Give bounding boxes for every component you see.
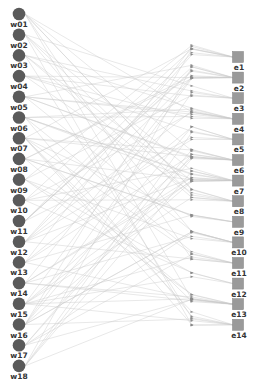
node-label: e9 bbox=[234, 228, 244, 237]
square-node-icon bbox=[233, 72, 244, 83]
left-node-w14[interactable]: w14 bbox=[10, 277, 27, 298]
left-node-w12[interactable]: w12 bbox=[10, 235, 27, 256]
left-node-w07[interactable]: w07 bbox=[10, 132, 27, 153]
arrowhead-marker bbox=[191, 167, 194, 169]
node-label: w14 bbox=[10, 289, 27, 298]
left-node-w18[interactable]: w18 bbox=[10, 360, 27, 380]
left-node-w09[interactable]: w09 bbox=[10, 173, 27, 194]
node-label: e5 bbox=[234, 145, 244, 154]
circle-node-icon bbox=[13, 153, 26, 166]
square-node-icon bbox=[233, 155, 244, 166]
circle-node-icon bbox=[13, 339, 26, 352]
circle-node-icon bbox=[13, 298, 26, 311]
square-node-icon bbox=[233, 258, 244, 269]
left-node-w08[interactable]: w08 bbox=[10, 153, 27, 174]
circle-node-icon bbox=[13, 360, 26, 373]
edge bbox=[25, 150, 233, 346]
circle-node-icon bbox=[13, 8, 26, 21]
arrowhead-marker bbox=[191, 315, 194, 317]
square-node-icon bbox=[233, 216, 244, 227]
arrowhead-marker bbox=[191, 85, 194, 87]
circle-node-icon bbox=[13, 256, 26, 269]
square-node-icon bbox=[233, 237, 244, 248]
edge bbox=[25, 178, 233, 242]
circle-node-icon bbox=[13, 28, 26, 41]
right-node-e5[interactable]: e5 bbox=[233, 134, 245, 155]
edge bbox=[25, 132, 233, 366]
right-node-e8[interactable]: e8 bbox=[233, 196, 245, 217]
left-node-w01[interactable]: w01 bbox=[10, 8, 27, 29]
right-node-e12[interactable]: e12 bbox=[231, 278, 247, 299]
left-node-w15[interactable]: w15 bbox=[10, 298, 27, 319]
right-node-e14[interactable]: e14 bbox=[231, 319, 247, 340]
node-label: e13 bbox=[231, 310, 247, 319]
right-node-e4[interactable]: e4 bbox=[233, 113, 245, 134]
right-node-column: e1e2e3e4e5e6e7e8e9e10e11e12e13e14 bbox=[231, 52, 247, 340]
square-node-icon bbox=[233, 113, 244, 124]
left-node-w17[interactable]: w17 bbox=[10, 339, 27, 360]
right-node-e10[interactable]: e10 bbox=[231, 237, 247, 258]
node-label: w18 bbox=[10, 372, 27, 380]
arrowhead-marker bbox=[191, 276, 194, 278]
square-node-icon bbox=[233, 52, 244, 63]
left-node-w04[interactable]: w04 bbox=[10, 70, 27, 91]
node-label: w15 bbox=[10, 310, 27, 319]
node-label: e3 bbox=[234, 104, 244, 113]
left-node-w05[interactable]: w05 bbox=[10, 91, 27, 112]
edge bbox=[25, 283, 233, 304]
square-node-icon bbox=[233, 319, 244, 330]
right-node-e7[interactable]: e7 bbox=[233, 175, 245, 196]
circle-node-icon bbox=[13, 235, 26, 248]
square-node-icon bbox=[233, 134, 244, 145]
edge bbox=[25, 159, 233, 346]
edge bbox=[25, 76, 233, 201]
node-label: w10 bbox=[10, 206, 27, 215]
edge bbox=[25, 138, 233, 160]
node-label: w09 bbox=[10, 186, 27, 195]
edge bbox=[25, 65, 233, 97]
edge bbox=[25, 181, 233, 284]
left-node-w03[interactable]: w03 bbox=[10, 49, 27, 70]
edge bbox=[25, 159, 233, 181]
edge bbox=[25, 299, 233, 366]
right-node-e9[interactable]: e9 bbox=[233, 216, 245, 237]
node-label: e14 bbox=[231, 331, 247, 340]
right-node-e1[interactable]: e1 bbox=[233, 52, 245, 73]
circle-node-icon bbox=[13, 91, 26, 104]
arrowhead-marker bbox=[191, 66, 194, 68]
left-node-w11[interactable]: w11 bbox=[10, 215, 27, 236]
circle-node-icon bbox=[13, 132, 26, 145]
circle-node-icon bbox=[13, 49, 26, 62]
square-node-icon bbox=[233, 93, 244, 104]
arrowhead-marker bbox=[191, 115, 194, 117]
edges bbox=[25, 14, 233, 366]
bipartite-graph: w01w02w03w04w05w06w07w08w09w10w11w12w13w… bbox=[0, 0, 256, 380]
node-label: w05 bbox=[10, 103, 27, 112]
arrowhead-marker bbox=[191, 237, 194, 239]
node-label: e1 bbox=[234, 63, 244, 72]
left-node-w13[interactable]: w13 bbox=[10, 256, 27, 277]
left-node-w10[interactable]: w10 bbox=[10, 194, 27, 215]
right-node-e11[interactable]: e11 bbox=[231, 258, 247, 279]
left-node-w16[interactable]: w16 bbox=[10, 318, 27, 339]
circle-node-icon bbox=[13, 277, 26, 290]
square-node-icon bbox=[233, 175, 244, 186]
right-node-e2[interactable]: e2 bbox=[233, 72, 245, 93]
node-label: w06 bbox=[10, 124, 27, 133]
right-node-e13[interactable]: e13 bbox=[231, 299, 247, 320]
right-node-e6[interactable]: e6 bbox=[233, 155, 245, 176]
arrowhead-marker bbox=[191, 138, 194, 140]
right-node-e3[interactable]: e3 bbox=[233, 93, 245, 114]
arrowhead-marker bbox=[191, 194, 194, 196]
node-label: w07 bbox=[10, 144, 27, 153]
circle-node-icon bbox=[13, 194, 26, 207]
circle-node-icon bbox=[13, 173, 26, 186]
arrowhead-marker bbox=[191, 45, 194, 47]
arrowhead-marker bbox=[191, 53, 194, 55]
left-node-w02[interactable]: w02 bbox=[10, 28, 27, 49]
arrowhead-marker bbox=[191, 251, 194, 253]
arrowhead-marker bbox=[191, 311, 194, 313]
node-label: w17 bbox=[10, 351, 27, 360]
left-node-w06[interactable]: w06 bbox=[10, 111, 27, 132]
node-label: e8 bbox=[234, 207, 244, 216]
